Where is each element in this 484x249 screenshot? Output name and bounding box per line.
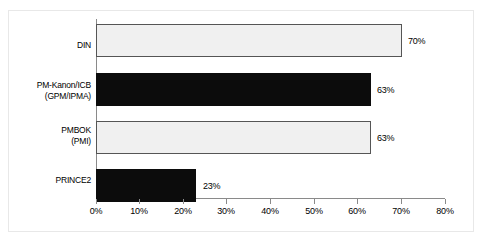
category-label-pmbok: PMBOK (PMI): [11, 125, 91, 147]
bar-prince2: [96, 169, 196, 202]
bar-pmbok: [96, 121, 371, 154]
category-label-line1: PRINCE2: [11, 175, 91, 186]
bar-value-pmbok: 63%: [377, 133, 394, 143]
bar-value-din: 70%: [408, 36, 425, 46]
bar-pm-kanon-icb: [96, 73, 371, 106]
category-label-pm-kanon-icb: PM-Kanon/ICB (GPM/IPMA): [11, 80, 91, 102]
x-tick-label-50: 50%: [294, 206, 334, 216]
bar-value-prince2: 23%: [203, 181, 220, 191]
x-tick-80: [445, 199, 446, 204]
x-tick-label-30: 30%: [206, 206, 246, 216]
x-tick-40: [270, 199, 271, 204]
x-tick-20: [183, 199, 184, 204]
x-tick-50: [314, 199, 315, 204]
category-label-line1: PM-Kanon/ICB: [11, 80, 91, 91]
x-tick-label-70: 70%: [381, 206, 421, 216]
x-tick-70: [401, 199, 402, 204]
category-label-prince2: PRINCE2: [11, 175, 91, 186]
chart-frame: DIN PM-Kanon/ICB (GPM/IPMA) PMBOK (PMI) …: [8, 10, 474, 232]
x-tick-label-80: 80%: [425, 206, 465, 216]
x-tick-60: [357, 199, 358, 204]
x-tick-label-0: 0%: [76, 206, 116, 216]
bar-din: [96, 24, 402, 57]
x-tick-label-40: 40%: [250, 206, 290, 216]
x-tick-10: [139, 199, 140, 204]
category-label-din: DIN: [11, 40, 91, 51]
category-label-line1: DIN: [11, 40, 91, 51]
x-tick-label-60: 60%: [337, 206, 377, 216]
x-tick-0: [96, 199, 97, 204]
bar-value-pm-kanon-icb: 63%: [377, 85, 394, 95]
plot-area: DIN PM-Kanon/ICB (GPM/IPMA) PMBOK (PMI) …: [9, 11, 475, 233]
category-label-line1: PMBOK: [11, 125, 91, 136]
x-tick-30: [226, 199, 227, 204]
x-tick-label-10: 10%: [119, 206, 159, 216]
x-tick-label-20: 20%: [163, 206, 203, 216]
category-label-line2: (PMI): [11, 136, 91, 147]
category-label-line2: (GPM/IPMA): [11, 91, 91, 102]
